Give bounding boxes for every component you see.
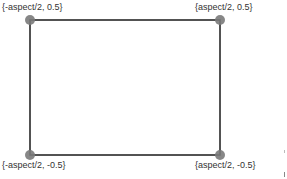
rectangle-outline bbox=[30, 20, 220, 155]
label-bottom-left: {-aspect/2, -0.5} bbox=[2, 160, 66, 170]
label-bottom-right: {aspect/2, -0.5} bbox=[195, 160, 256, 170]
corner-dot-top-right bbox=[215, 15, 225, 25]
corner-dot-bottom-left bbox=[25, 150, 35, 160]
corner-dot-bottom-right bbox=[215, 150, 225, 160]
edge-mark-upper bbox=[284, 150, 285, 153]
corner-dot-top-left bbox=[25, 15, 35, 25]
label-top-left: {-aspect/2, 0.5} bbox=[2, 2, 63, 12]
label-top-right: {aspect/2, 0.5} bbox=[195, 2, 253, 12]
edge-mark-lower bbox=[284, 172, 285, 177]
rectangle-diagram bbox=[0, 0, 287, 179]
